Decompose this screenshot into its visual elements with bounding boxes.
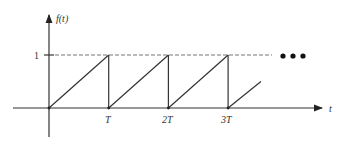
data-point — [227, 107, 230, 110]
series-segment — [49, 55, 109, 108]
x-tick-label-2T: 2T — [162, 114, 174, 125]
dot — [300, 53, 305, 58]
series-segment — [168, 55, 228, 108]
series-segment — [228, 82, 261, 109]
y-tick-label-1: 1 — [34, 50, 39, 61]
sawtooth-diagram: t f(t) 1 T 2T 3T — [0, 0, 342, 142]
dot — [290, 53, 295, 58]
data-point — [107, 107, 110, 110]
x-axis-label: t — [329, 103, 332, 114]
dot — [280, 53, 285, 58]
data-point — [48, 107, 51, 110]
sawtooth-series — [48, 55, 261, 109]
continuation-dots — [280, 53, 305, 58]
data-point — [167, 107, 170, 110]
series-segment — [109, 55, 169, 108]
x-tick-label-T: T — [105, 114, 112, 125]
y-axis-label: f(t) — [56, 13, 69, 25]
x-tick-label-3T: 3T — [220, 114, 233, 125]
